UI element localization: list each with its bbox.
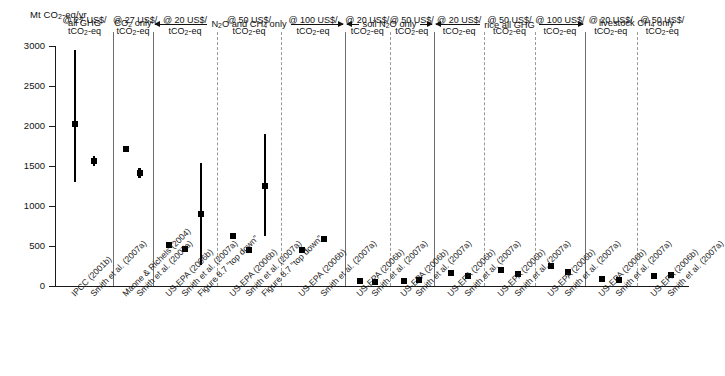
error-bar: [74, 50, 76, 182]
price-label: @ 50 US$/tCO2-eq: [217, 15, 281, 38]
y-tick-mark: [49, 166, 55, 167]
price-label: @ 100 US$/tCO2-eq: [281, 15, 345, 38]
price-label: @ 20 US$/tCO2-eq: [585, 15, 637, 38]
data-point-marker: [123, 146, 129, 152]
panel-divider: [113, 32, 114, 286]
price-label: @ 50 US$/tCO2-eq: [484, 15, 534, 38]
price-label: @ 27 US$/tCO2-eq: [113, 15, 153, 38]
panel-divider: [345, 32, 346, 286]
data-point-marker: [599, 276, 605, 282]
price-label: @ 27 US$/tCO2-eq: [56, 15, 113, 38]
panel-divider: [585, 32, 586, 286]
price-label: @ 50 US$/tCO2-eq: [637, 15, 689, 38]
y-tick-label: 0: [0, 281, 45, 291]
y-tick-label: 1000: [0, 201, 45, 211]
y-tick-label: 500: [0, 241, 45, 251]
y-tick-label: 2000: [0, 121, 45, 131]
y-tick-mark: [49, 46, 55, 47]
data-point-marker: [72, 121, 78, 127]
y-tick-mark: [49, 246, 55, 247]
y-tick-mark: [49, 126, 55, 127]
y-tick-mark: [49, 86, 55, 87]
data-point-marker: [651, 273, 657, 279]
data-point-marker: [198, 211, 204, 217]
price-label: @ 100 US$/tCO2-eq: [535, 15, 585, 38]
data-point-marker: [91, 158, 97, 164]
data-point-marker: [262, 183, 268, 189]
price-label: @ 20 US$/tCO2-eq: [153, 15, 217, 38]
price-column-divider: [217, 32, 218, 286]
y-tick-mark: [49, 206, 55, 207]
y-tick-mark: [49, 286, 55, 287]
price-label: @ 20 US$/tCO2-eq: [345, 15, 390, 38]
y-axis-line: [55, 46, 56, 287]
data-point-marker: [137, 170, 143, 176]
price-column-divider: [535, 32, 536, 286]
price-column-divider: [390, 32, 391, 286]
y-tick-label: 3000: [0, 41, 45, 51]
price-column-divider: [484, 32, 485, 286]
price-label: @ 20 US$/tCO2-eq: [434, 15, 484, 38]
y-tick-label: 1500: [0, 161, 45, 171]
y-tick-label: 2500: [0, 81, 45, 91]
data-point-marker: [230, 233, 236, 239]
price-label: @ 50 US$/tCO2-eq: [390, 15, 435, 38]
price-column-divider: [637, 32, 638, 286]
data-point-marker: [448, 270, 454, 276]
price-column-divider: [281, 32, 282, 286]
panel-divider: [153, 32, 154, 286]
panel-divider: [434, 32, 435, 286]
